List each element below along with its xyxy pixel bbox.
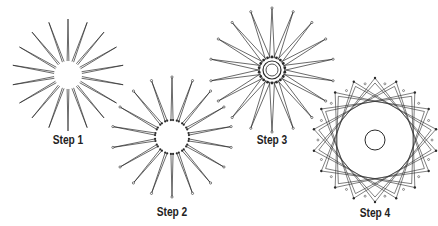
step-2-star <box>112 76 232 198</box>
step-3-star <box>210 7 334 133</box>
string-art-diagram <box>0 0 438 226</box>
step-1-label: Step 1 <box>49 133 86 147</box>
step-2-label: Step 2 <box>153 205 190 219</box>
step-4-label: Step 4 <box>356 206 393 220</box>
step-1-star <box>13 19 123 131</box>
step-4-star <box>313 77 438 203</box>
step-3-label: Step 3 <box>253 133 290 147</box>
